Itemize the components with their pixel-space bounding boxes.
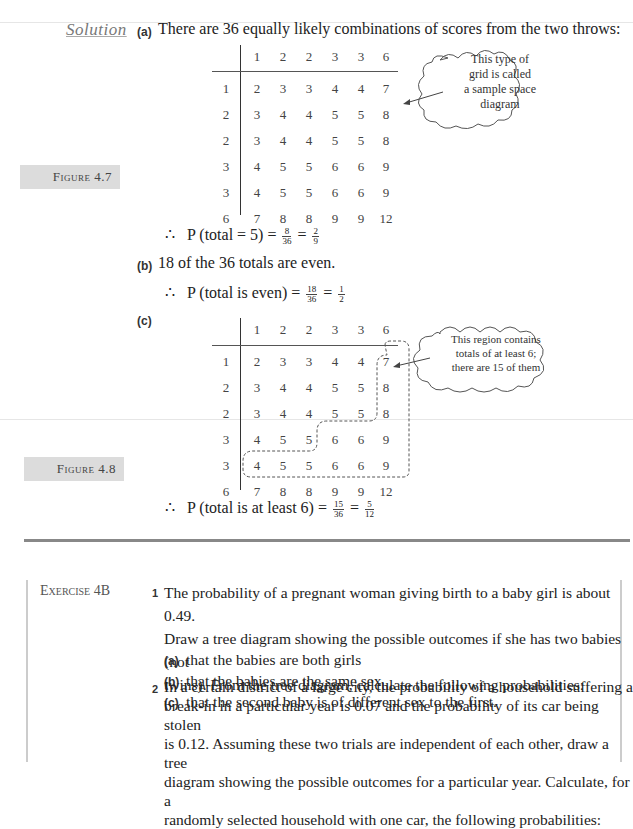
grid-cell: 6 [349,458,373,474]
grid-cell: 6 [323,458,347,474]
grid-cell: 4 [349,81,373,97]
part-a-result: ∴ P (total = 5) = 836 = 29 [165,225,321,246]
column-header: 1 [245,49,269,65]
grid-cell: 2 [245,354,269,370]
column-header: 3 [323,49,347,65]
grid-cell: 4 [297,380,321,396]
grid-cell: 6 [349,185,373,201]
part-a-text: There are 36 equally likely combinations… [158,20,621,38]
grid-cell: 5 [349,133,373,149]
part-c-result: ∴ P (total is at least 6) = 1536 = 512 [165,498,376,519]
section-divider [24,539,630,542]
figure-4-7-label: Figure 4.7 [20,165,120,189]
grid-cell: 8 [374,406,398,422]
grid-cell: 3 [297,354,321,370]
grid-cell: 5 [349,380,373,396]
question-2-number: 2 [152,683,158,695]
question-1-number: 1 [152,587,158,599]
grid-cell: 4 [297,107,321,123]
grid-cell: 8 [374,133,398,149]
exercise-box-border [26,580,28,762]
grid-cell: 5 [349,406,373,422]
column-header: 3 [323,322,347,338]
row-header: 2 [214,380,238,396]
grid-cell: 3 [245,133,269,149]
part-a-label: (a) [137,25,152,39]
exercise-label: Exercise 4B [40,583,110,599]
grid-cell: 4 [245,185,269,201]
grid-cell: 5 [271,185,295,201]
row-header: 3 [214,458,238,474]
grid-cell: 4 [271,406,295,422]
grid-cell: 5 [349,107,373,123]
grid-cell: 4 [323,354,347,370]
grid-cell: 9 [374,159,398,175]
grid-cell: 6 [323,185,347,201]
column-header: 2 [297,322,321,338]
grid-cell: 2 [245,81,269,97]
grid-cell: 4 [245,432,269,448]
grid-cell: 8 [374,107,398,123]
grid-cell: 6 [349,159,373,175]
row-header: 2 [214,107,238,123]
grid-cell: 5 [271,159,295,175]
row-header: 1 [214,354,238,370]
grid-cell: 4 [245,458,269,474]
row-header: 2 [214,133,238,149]
column-header: 6 [374,49,398,65]
grid-cell: 5 [323,133,347,149]
grid-cell: 4 [297,133,321,149]
grid-cell: 9 [374,458,398,474]
grid-cell: 5 [323,380,347,396]
grid-cell: 4 [323,81,347,97]
part-b-label: (b) [137,259,152,273]
grid-cell: 5 [297,432,321,448]
grid-cell: 6 [323,159,347,175]
grid-cell: 3 [297,81,321,97]
grid-cell: 7 [374,81,398,97]
grid-cell: 5 [323,107,347,123]
grid-cell: 5 [271,458,295,474]
grid-cell: 5 [297,159,321,175]
grid-cell: 4 [349,354,373,370]
grid-cell: 12 [374,484,398,500]
grid-cell: 4 [271,133,295,149]
grid-cell: 3 [271,81,295,97]
part-c-label: (c) [137,314,152,328]
column-header: 2 [297,49,321,65]
grid-cell: 9 [374,185,398,201]
row-header: 2 [214,406,238,422]
column-header: 2 [271,322,295,338]
part-b-text: 18 of the 36 totals are even. [158,254,335,272]
solution-heading: Solution [66,20,127,40]
grid-cell: 6 [349,432,373,448]
grid-cell: 5 [323,406,347,422]
grid-cell: 4 [297,406,321,422]
grid-cell: 9 [349,211,373,227]
grid-cell: 5 [297,185,321,201]
grid-cell: 4 [245,159,269,175]
column-header: 1 [245,322,269,338]
grid-cell: 5 [297,458,321,474]
grid-cell: 9 [323,211,347,227]
grid-cell: 3 [245,107,269,123]
question-2-text: In a certain district of a large city, t… [164,677,633,829]
grid-cell: 3 [271,354,295,370]
grid-cell: 4 [271,107,295,123]
grid-cell: 5 [271,432,295,448]
grid-cell: 4 [271,380,295,396]
column-header: 3 [349,322,373,338]
column-header: 2 [271,49,295,65]
grid-cell: 12 [374,211,398,227]
grid-cell: 6 [323,432,347,448]
grid-cell: 3 [245,406,269,422]
row-header: 1 [214,81,238,97]
callout-4-7-text: This type of grid is called a sample spa… [455,52,545,112]
column-header: 3 [349,49,373,65]
grid-cell: 3 [245,380,269,396]
row-header: 3 [214,185,238,201]
row-header: 3 [214,432,238,448]
figure-4-8-label: Figure 4.8 [24,457,124,481]
callout-4-8-text: This region contains totals of at least … [432,332,560,374]
row-header: 3 [214,159,238,175]
